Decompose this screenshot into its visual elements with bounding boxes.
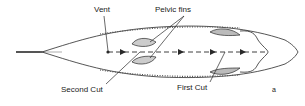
panel-letter: a — [272, 86, 276, 93]
vent-label: Vent — [94, 6, 110, 14]
pelvic-fin-lower — [132, 56, 156, 64]
fish-diagram — [0, 0, 305, 106]
pelvic-fins-label: Pelvic fins — [155, 6, 191, 14]
second-cut-leader — [106, 52, 140, 84]
first-cut-leader — [210, 52, 225, 82]
cut-arrow-2 — [178, 49, 184, 55]
body-outline-upper — [42, 26, 298, 52]
pelvic-leader-1 — [150, 16, 184, 42]
cut-arrow-4 — [240, 49, 246, 55]
second-cut-label: Second Cut — [61, 86, 103, 94]
first-cut-label: First Cut — [177, 84, 207, 92]
pelvic-fin-upper — [132, 38, 156, 46]
cut-arrow-3 — [210, 49, 216, 55]
cut-arrow-1 — [120, 49, 126, 55]
pectoral-fin-upper — [210, 29, 240, 36]
body-outline-lower — [42, 52, 298, 78]
